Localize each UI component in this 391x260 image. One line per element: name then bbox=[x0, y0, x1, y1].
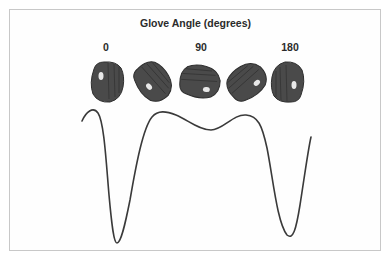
response-curve bbox=[0, 0, 391, 260]
